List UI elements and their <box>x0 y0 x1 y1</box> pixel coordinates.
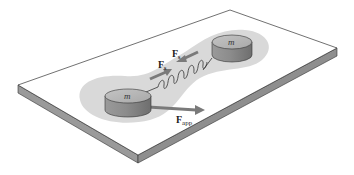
mass-right: m <box>212 35 252 62</box>
mass-left-label: m <box>124 91 131 101</box>
mass-right-label: m <box>228 37 235 47</box>
spring-mass-diagram: Fs Fs m m Fapp <box>0 0 354 175</box>
mass-left: m <box>105 89 151 117</box>
